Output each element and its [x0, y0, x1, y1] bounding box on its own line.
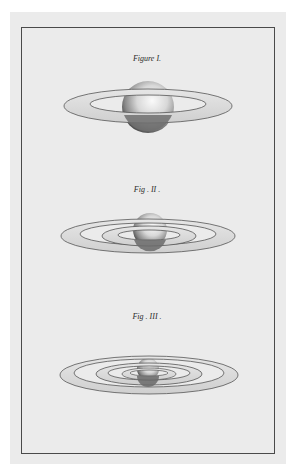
figure-2-planet — [61, 213, 235, 253]
figure-1-planet — [64, 80, 232, 133]
figure-3-planet — [60, 356, 238, 394]
saturn-illustrations — [0, 0, 294, 476]
